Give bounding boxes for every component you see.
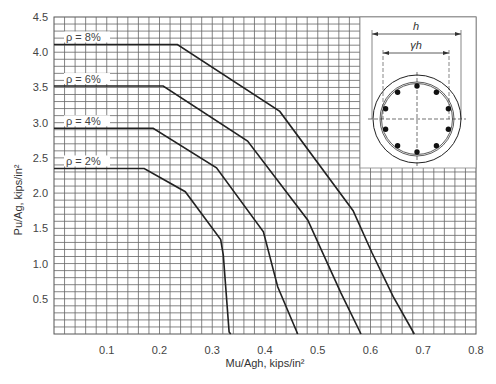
- y-tick-label: 1.0: [33, 258, 48, 270]
- x-tick-label: 0.8: [468, 344, 483, 356]
- x-tick-label: 0.3: [205, 344, 220, 356]
- x-tick-label: 0.5: [310, 344, 325, 356]
- series-label: ρ = 4%: [66, 115, 101, 127]
- inset-h-label: h: [413, 20, 419, 32]
- x-axis-label: Mu/Agh, kips/in²: [226, 357, 305, 369]
- x-tick-label: 0.4: [257, 344, 272, 356]
- column-section-inset: h γh: [360, 17, 476, 168]
- x-tick-label: 0.2: [152, 344, 167, 356]
- interaction-diagram: h γh ρ = 8%ρ = 6%ρ = 4%ρ = 2% 0.10.20.30…: [0, 0, 496, 384]
- y-axis-label: Pu/Ag, kips/in²: [12, 164, 24, 235]
- y-tick-label: 2.5: [33, 152, 48, 164]
- y-tick-label: 3.5: [33, 81, 48, 93]
- y-tick-label: 3.0: [33, 117, 48, 129]
- series-label: ρ = 8%: [66, 31, 101, 43]
- series-label: ρ = 6%: [66, 73, 101, 85]
- series-label: ρ = 2%: [66, 155, 101, 167]
- y-tick-label: 0.5: [33, 293, 48, 305]
- x-tick-label: 0.6: [363, 344, 378, 356]
- x-tick-label: 0.1: [99, 344, 114, 356]
- inset-gamma-h-label: γh: [410, 39, 422, 51]
- y-tick-label: 1.5: [33, 222, 48, 234]
- y-tick-label: 4.5: [33, 11, 48, 23]
- x-tick-label: 0.7: [416, 344, 431, 356]
- y-tick-label: 4.0: [33, 46, 48, 58]
- y-tick-label: 2.0: [33, 187, 48, 199]
